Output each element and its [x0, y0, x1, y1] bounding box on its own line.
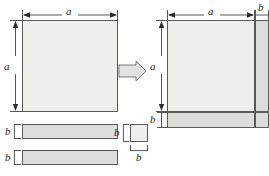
left-rect-2-dimension	[14, 151, 21, 165]
right-bottom-strip-dimension	[157, 113, 167, 128]
right-bottom-strip-height-label: b	[150, 114, 156, 125]
right-vertical-strip	[255, 20, 269, 112]
left-rect-1	[22, 124, 118, 139]
left-height-dimension	[10, 21, 22, 112]
left-square-b	[130, 124, 148, 142]
right-square-a-width-label: a	[208, 6, 214, 17]
left-rect-2-height-label: b	[5, 152, 11, 163]
right-strip-width-label: b	[258, 2, 264, 13]
left-square-a-width-label: a	[66, 6, 72, 17]
transform-arrow-icon	[119, 61, 146, 81]
right-square-a-height-label: a	[150, 61, 156, 72]
left-rect-1-dimension	[14, 125, 21, 139]
left-rect-1-height-label: b	[5, 126, 11, 137]
left-square-b-height-dimension	[123, 125, 129, 142]
right-bottom-strip	[167, 112, 255, 128]
left-rect-2	[22, 150, 118, 165]
right-height-dimension	[156, 21, 167, 112]
figure-canvas: a a b b b b a b a b	[0, 0, 269, 176]
left-square-a-height-label: a	[4, 61, 10, 72]
left-square-b-width-label: b	[136, 152, 142, 163]
right-corner-square-b	[255, 112, 269, 128]
left-square-b-height-label: b	[114, 127, 120, 138]
right-square-a	[167, 20, 255, 112]
left-square-a	[22, 20, 118, 112]
